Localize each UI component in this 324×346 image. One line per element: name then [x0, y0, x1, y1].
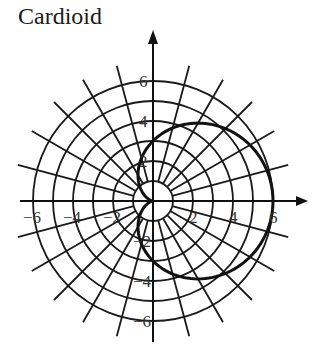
x-axis-arrow-icon [296, 196, 308, 206]
y-tick-label: −4 [133, 272, 152, 291]
polar-plot: −6−4−2246 642−2−4−6 [0, 0, 324, 346]
y-axis-arrow-icon [148, 30, 158, 44]
y-tick-label: 2 [139, 152, 148, 171]
grid-radial-line [167, 102, 252, 187]
x-tick-label: 6 [269, 208, 278, 227]
x-tick-label: −4 [63, 208, 82, 227]
y-tick-label: 4 [139, 112, 148, 131]
x-tick-label: 2 [189, 208, 198, 227]
x-tick-label: −6 [23, 208, 41, 227]
y-tick-label: 6 [139, 72, 148, 91]
y-tick-label: −6 [133, 312, 151, 331]
x-tick-label: −2 [103, 208, 121, 227]
grid-radial-line [54, 102, 139, 187]
grid-radial-line [167, 215, 252, 300]
grid-radial-line [54, 215, 139, 300]
axes [20, 30, 308, 342]
y-tick-label: −2 [133, 232, 151, 251]
x-tick-label: 4 [229, 208, 238, 227]
